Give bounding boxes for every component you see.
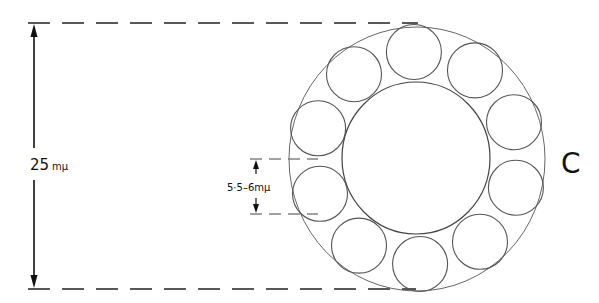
subunit-circle <box>291 101 346 156</box>
subunit-arrow-down-icon <box>253 204 259 213</box>
subunit-circle <box>332 218 387 273</box>
diagram-canvas: 25mμ 5·5–6mμ C <box>0 0 599 303</box>
subunit-circle <box>386 25 441 80</box>
subunit-circle <box>453 214 508 269</box>
subunit-circle <box>393 237 448 292</box>
inner-core-circle <box>342 82 490 234</box>
arrow-up-icon <box>31 24 38 37</box>
subunit-ring <box>291 25 544 292</box>
panel-label: C <box>561 147 581 180</box>
subunit-circle <box>293 166 348 221</box>
outer-diameter-label: 25mμ <box>30 156 69 174</box>
subunit-circle <box>487 95 542 150</box>
outer-diameter-value: 25 <box>30 156 49 174</box>
subunit-arrow-up-icon <box>253 160 259 169</box>
subunit-diameter-label: 5·5–6mμ <box>227 182 271 193</box>
outer-diameter-unit: mμ <box>52 161 69 172</box>
subunit-circle <box>448 43 503 98</box>
subunit-circle <box>488 160 543 215</box>
subunit-circle <box>327 47 382 102</box>
arrow-down-icon <box>31 275 38 288</box>
